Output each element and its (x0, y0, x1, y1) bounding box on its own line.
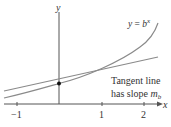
tick-label-2: 2 (141, 109, 146, 120)
exponential-curve (4, 23, 158, 98)
tick-label-neg1: −1 (11, 109, 22, 120)
y-axis-label: y (55, 2, 61, 13)
tangent-point (57, 82, 61, 86)
exponential-tangent-diagram: y x y = bx Tangent line has slope mb −1 … (0, 0, 171, 127)
tick-label-1: 1 (99, 109, 104, 120)
tangent-label-line1: Tangent line (111, 75, 161, 86)
curve-label: y = bx (127, 17, 151, 29)
x-axis-label: x (162, 99, 168, 110)
tangent-label-line2: has slope mb (111, 88, 162, 101)
